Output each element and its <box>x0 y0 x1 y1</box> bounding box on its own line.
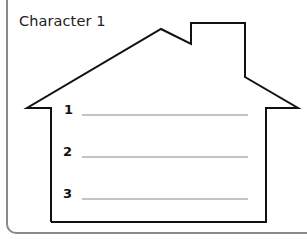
line-number-3: 3 <box>63 186 72 201</box>
writing-line-1[interactable] <box>82 114 250 117</box>
writing-line-3[interactable] <box>82 198 250 201</box>
line-number-1: 1 <box>64 102 73 117</box>
line-number-2: 2 <box>63 144 72 159</box>
writing-line-2[interactable] <box>82 156 250 159</box>
house-outline-icon <box>0 0 307 239</box>
